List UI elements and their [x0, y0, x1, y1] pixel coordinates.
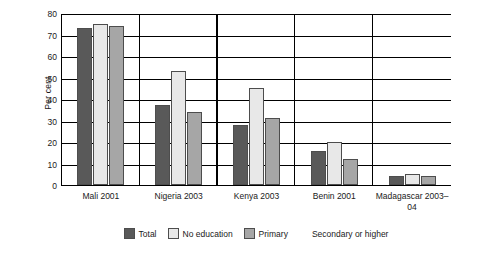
bar: [327, 142, 342, 185]
x-tick-label: Benin 2001: [295, 191, 373, 202]
bar: [405, 174, 420, 185]
bar: [155, 105, 170, 185]
bar: [421, 176, 436, 185]
x-tick-label: Nigeria 2003: [140, 191, 218, 202]
bar-set: [373, 14, 451, 185]
bar-set: [140, 14, 218, 185]
bar-group: Mali 2001: [62, 14, 140, 185]
bar-set: [62, 14, 140, 185]
bar: [93, 24, 108, 185]
y-tick-label: 20: [48, 138, 57, 148]
bar-group: Madagascar 2003–04: [373, 14, 451, 185]
bar-chart: Per cent 01020304050607080 Mali 2001Nige…: [0, 0, 477, 260]
y-tick-label: 40: [48, 95, 57, 105]
bar-group: Benin 2001: [295, 14, 373, 185]
legend-item: Total: [124, 228, 157, 239]
bar-groups: Mali 2001Nigeria 2003Kenya 2003Benin 200…: [62, 14, 451, 185]
bar: [109, 26, 124, 185]
bar: [265, 118, 280, 185]
y-tick-label: 80: [48, 9, 57, 19]
y-tick-label: 50: [48, 74, 57, 84]
x-tick-label: Kenya 2003: [218, 191, 296, 202]
plot-area: 01020304050607080 Mali 2001Nigeria 2003K…: [61, 14, 451, 186]
bar: [311, 151, 326, 185]
legend-swatch: [168, 228, 179, 239]
y-tick-label: 30: [48, 117, 57, 127]
legend-item: Secondary or higher: [299, 229, 389, 239]
bar: [249, 88, 264, 185]
legend-swatch: [124, 228, 135, 239]
y-tick-label: 60: [48, 52, 57, 62]
bar: [343, 159, 358, 185]
bar: [389, 176, 404, 185]
y-tick-label: 70: [48, 31, 57, 41]
legend-item: Primary: [244, 228, 288, 239]
x-tick-label: Madagascar 2003–04: [373, 191, 451, 213]
legend-label: No education: [183, 229, 233, 239]
bar: [77, 28, 92, 185]
legend-label: Primary: [259, 229, 288, 239]
y-tick-label: 0: [52, 181, 57, 191]
legend-label: Total: [139, 229, 157, 239]
bar: [187, 112, 202, 185]
bar-group: Nigeria 2003: [140, 14, 218, 185]
bar: [171, 71, 186, 185]
legend-swatch: [244, 228, 255, 239]
x-tick-label: Mali 2001: [62, 191, 140, 202]
legend-item: No education: [168, 228, 233, 239]
bar: [233, 125, 248, 185]
bar-set: [218, 14, 296, 185]
y-tick-label: 10: [48, 160, 57, 170]
bar-group: Kenya 2003: [218, 14, 296, 185]
bar-set: [295, 14, 373, 185]
chart-legend: TotalNo educationPrimarySecondary or hig…: [61, 228, 451, 239]
legend-label: Secondary or higher: [312, 229, 389, 239]
